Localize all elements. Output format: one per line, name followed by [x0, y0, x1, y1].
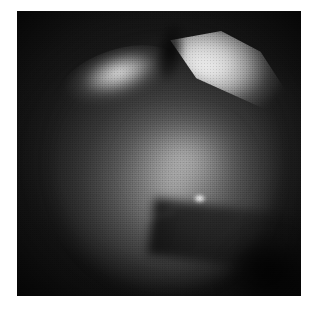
page-root — [0, 0, 316, 310]
lower-right-dark-quadrant — [165, 182, 301, 296]
endoscopic-image-plate — [17, 11, 301, 296]
